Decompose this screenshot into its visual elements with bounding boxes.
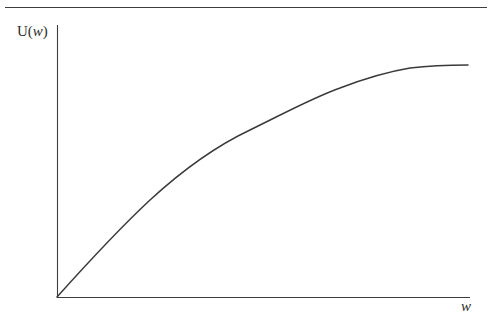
x-axis-label: w: [461, 299, 471, 314]
plot-canvas: [0, 0, 495, 320]
utility-curve: [57, 65, 468, 297]
y-axis-label-suffix: ): [43, 23, 48, 39]
y-axis-label-prefix: U(: [17, 23, 33, 39]
y-axis-label-variable: w: [33, 23, 43, 39]
y-axis-label: U(w): [17, 24, 48, 39]
utility-function-figure: U(w) w: [0, 0, 495, 320]
